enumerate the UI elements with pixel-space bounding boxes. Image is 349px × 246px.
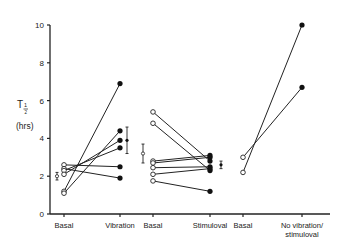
x-tick-label: Basal: [55, 221, 74, 230]
subject-line: [64, 165, 120, 167]
group-no-vibration-stimuloval: [241, 22, 305, 174]
treatment-mean-point: [219, 163, 222, 166]
basal-mean-point: [55, 175, 58, 178]
subject-line: [153, 169, 210, 175]
treatment-point: [117, 128, 122, 133]
x-tick-label: Basal: [144, 221, 163, 230]
treatment-point: [299, 22, 304, 27]
subject-line: [64, 169, 120, 178]
x-tick-label: Vibration: [105, 221, 134, 230]
treatment-point: [117, 164, 122, 169]
y-tick-label: 2: [40, 172, 45, 181]
basal-point: [62, 191, 67, 196]
y-axis-label: T12(hrs): [16, 99, 34, 131]
subject-line: [64, 140, 120, 174]
subject-line: [64, 131, 120, 193]
basal-point: [151, 110, 156, 115]
x-axis: BasalVibrationBasalStimulovalBasalNo vib…: [50, 214, 330, 239]
x-tick-label: Basal: [234, 221, 253, 230]
basal-point: [62, 172, 67, 177]
treatment-point: [207, 189, 212, 194]
basal-point: [241, 155, 246, 160]
basal-point: [241, 170, 246, 175]
basal-point: [151, 179, 156, 184]
subject-line: [64, 84, 120, 192]
chart: 0246810 BasalVibrationBasalStimulovalBas…: [0, 0, 349, 246]
y-axis: 0246810: [35, 21, 50, 219]
x-tick-label: stimuloval: [285, 230, 319, 239]
group-vibration: [55, 81, 128, 196]
subject-line: [64, 148, 120, 171]
y-tick-label: 4: [40, 134, 45, 143]
y-label-sub-num: 1: [24, 102, 27, 108]
plot-area: [55, 22, 304, 195]
treatment-point: [117, 81, 122, 86]
y-label-main: T: [17, 99, 23, 110]
basal-point: [151, 172, 156, 177]
basal-point: [151, 165, 156, 170]
y-tick-label: 10: [35, 21, 44, 30]
treatment-point: [117, 175, 122, 180]
treatment-point: [207, 166, 212, 171]
basal-point: [151, 121, 156, 126]
subject-line: [153, 123, 210, 170]
y-label-sub-den: 2: [25, 110, 28, 115]
subject-line: [153, 167, 210, 168]
treatment-point: [299, 85, 304, 90]
subject-line: [153, 181, 210, 191]
treatment-mean-point: [125, 139, 128, 142]
y-tick-label: 6: [40, 97, 45, 106]
x-tick-label: Stimuloval: [193, 221, 228, 230]
treatment-point: [117, 145, 122, 150]
x-tick-label: No vibration/: [281, 221, 324, 230]
group-stimuloval: [141, 110, 222, 194]
subject-line: [153, 112, 210, 161]
basal-point: [151, 161, 156, 166]
treatment-point: [207, 155, 212, 160]
y-tick-label: 8: [40, 59, 45, 68]
y-tick-label: 0: [40, 210, 45, 219]
treatment-point: [117, 138, 122, 143]
basal-mean-point: [141, 152, 144, 155]
y-label-unit: (hrs): [16, 121, 34, 131]
subject-line: [243, 25, 302, 172]
